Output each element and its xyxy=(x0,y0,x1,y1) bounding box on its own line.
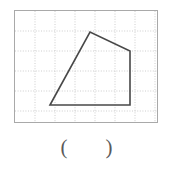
close-paren: ) xyxy=(106,137,113,158)
quadrilateral-shape xyxy=(50,32,130,105)
answer-blank: ( ) xyxy=(0,130,173,164)
polygon-layer xyxy=(15,11,157,122)
open-paren: ( xyxy=(61,137,68,158)
figure-root: ( ) xyxy=(0,0,173,169)
grid-panel xyxy=(14,10,158,123)
